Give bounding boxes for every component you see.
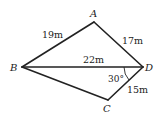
edge-bc [22,67,108,100]
diagram-canvas: A B C D 19m 17m 22m 15m 30° [0,0,162,114]
point-label-a: A [89,8,97,19]
length-label-cd: 15m [127,84,148,95]
geometry-diagram: A B C D 19m 17m 22m 15m 30° [0,0,162,114]
angle-arc-d [124,67,129,80]
length-label-ad: 17m [122,35,143,46]
angle-label-d: 30° [108,74,124,84]
length-label-ab: 19m [42,29,63,40]
point-label-b: B [9,62,17,73]
point-label-d: D [144,62,153,73]
length-label-bd: 22m [83,54,104,65]
point-label-c: C [103,103,111,114]
